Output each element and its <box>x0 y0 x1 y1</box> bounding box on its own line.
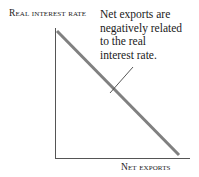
net-exports-graph-figure: Real interest rate Net exports Net expor… <box>0 0 199 177</box>
x-axis-label: Net exports <box>121 163 171 173</box>
annotation-text-block: Net exports are negatively related to th… <box>100 8 196 62</box>
annotation-line-2: negatively related <box>100 22 196 36</box>
annotation-pointer-line <box>110 67 133 93</box>
annotation-line-4: interest rate. <box>100 49 196 63</box>
annotation-line-3: to the real <box>100 35 196 49</box>
y-axis-label: Real interest rate <box>9 9 86 19</box>
annotation-line-1: Net exports are <box>100 8 196 22</box>
